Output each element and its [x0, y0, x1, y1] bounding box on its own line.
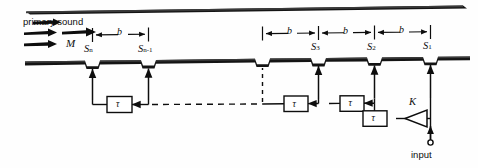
slot-label-sn: Sn: [84, 44, 93, 55]
delay-box-label-4: τ: [372, 114, 375, 124]
mach-number-label: M: [66, 38, 75, 49]
figure-canvas: primary sound M b b b b Sn Sn-1 S3 S2 S1…: [0, 0, 478, 168]
slot-label-s2-sub: 2: [372, 44, 376, 52]
slot-label-sn-1-sub: n-1: [143, 46, 152, 54]
slot-label-s1-sub: 1: [428, 43, 432, 51]
slot-label-s3: S3: [311, 42, 320, 53]
gain-label-k: K: [409, 97, 416, 108]
slot-label-s1: S1: [423, 41, 432, 52]
amplifier-triangle: [405, 110, 427, 127]
delay-box-label-1: τ: [116, 100, 119, 110]
delay-box-4: [363, 111, 387, 127]
delay-box-label-2: τ: [293, 100, 296, 110]
delay-box-3: [340, 96, 364, 112]
dimension-lines: [93, 25, 431, 42]
slot-label-s3-sub: 3: [316, 44, 320, 52]
dimension-arrows: [96, 32, 427, 35]
spacing-label-b-2: b: [287, 26, 292, 36]
slot-label-sn-1: Sn-1: [138, 44, 153, 55]
tap-risers: [93, 65, 431, 100]
spacing-label-b-3: b: [343, 26, 348, 36]
delay-box-1: [107, 97, 132, 113]
lower-waveguide-wall: [25, 56, 470, 69]
upper-waveguide-wall: [26, 6, 467, 15]
slot-label-sn-sub: n: [89, 46, 93, 54]
delay-box-label-3: τ: [349, 99, 352, 109]
spacing-label-b-4: b: [399, 25, 404, 35]
input-terminal: [428, 126, 433, 145]
spacing-label-b-1: b: [117, 27, 122, 37]
primary-sound-label: primary sound: [23, 17, 83, 27]
slot-label-s2: S2: [367, 42, 376, 53]
input-label: input: [411, 150, 432, 160]
delay-box-2: [284, 96, 308, 112]
